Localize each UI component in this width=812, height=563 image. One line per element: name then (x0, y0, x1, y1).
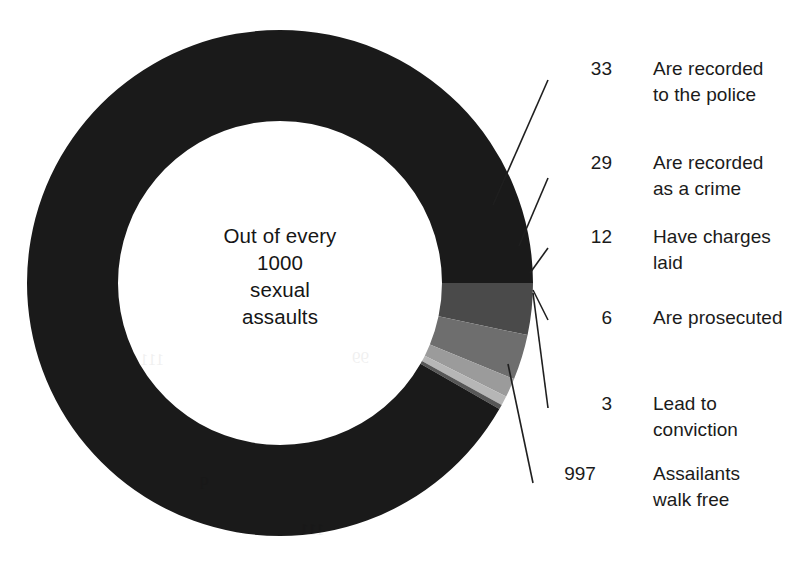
center-text-line-3: sexual (160, 276, 400, 303)
callout-value: 29 (556, 150, 612, 175)
callout-label: Are prosecuted (653, 305, 783, 331)
leader-line (519, 178, 548, 246)
callout-value: 3 (556, 391, 612, 416)
donut-chart-figure: Out of every 1000 sexual assaults 33Are … (0, 0, 812, 563)
callout-value: 6 (556, 305, 612, 330)
callout-value: 997 (540, 461, 596, 486)
callout-label: Lead to conviction (653, 391, 738, 442)
leader-line (493, 80, 548, 205)
callout-label: Have charges laid (653, 224, 771, 275)
callout-value: 33 (556, 56, 612, 81)
leader-line (533, 293, 548, 408)
callout-value: 12 (556, 224, 612, 249)
callout-label: Are recorded as a crime (653, 150, 763, 201)
leader-line (530, 248, 548, 273)
leader-line (508, 364, 533, 483)
center-text-line-1: Out of every (160, 222, 400, 249)
center-text-line-4: assaults (160, 303, 400, 330)
callout-label: Assailants walk free (653, 461, 740, 512)
center-text-line-2: 1000 (160, 249, 400, 276)
donut-center-text: Out of every 1000 sexual assaults (160, 222, 400, 330)
callout-label: Are recorded to the police (653, 56, 763, 107)
